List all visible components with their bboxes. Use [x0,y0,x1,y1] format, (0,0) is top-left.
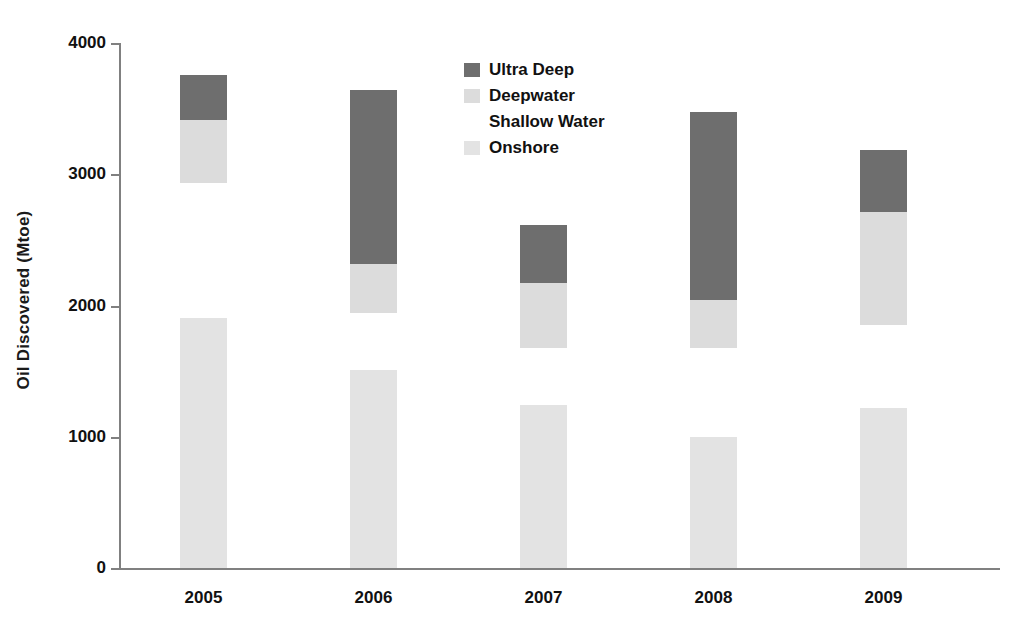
bar-segment-2009-onshore[interactable] [860,408,907,568]
y-tick-mark [111,568,120,570]
legend-swatch-icon [464,63,480,77]
bar-segment-2006-deepwater[interactable] [350,264,397,314]
legend-item-deepwater[interactable]: Deepwater [464,83,694,109]
y-tick-label: 3000 [68,164,106,184]
bar-segment-2005-ultra-deep[interactable] [180,75,227,120]
x-axis-label-2009: 2009 [860,588,907,608]
bar-segment-2009-deepwater[interactable] [860,212,907,325]
legend-swatch-icon [464,115,480,129]
x-axis-line [119,568,1000,570]
y-tick-mark [111,437,120,439]
legend-label: Shallow Water [489,112,605,132]
bar-segment-2005-onshore[interactable] [180,318,227,568]
legend-label: Deepwater [489,86,575,106]
y-tick-mark [111,174,120,176]
legend-item-ultra-deep[interactable]: Ultra Deep [464,57,694,83]
oil-discovery-stacked-bar-chart: Oil Discovered (Mtoe) 01000200030004000 … [0,0,1013,641]
bar-segment-2008-shallow-water[interactable] [690,348,737,437]
y-tick-mark [111,43,120,45]
legend-swatch-icon [464,141,480,155]
y-tick-label: 0 [97,558,106,578]
x-axis-label-2006: 2006 [350,588,397,608]
bar-segment-2009-shallow-water[interactable] [860,325,907,408]
bar-segment-2006-ultra-deep[interactable] [350,90,397,263]
x-axis-label-2005: 2005 [180,588,227,608]
legend: Ultra DeepDeepwaterShallow WaterOnshore [464,57,694,161]
bar-segment-2007-ultra-deep[interactable] [520,225,567,283]
bar-segment-2006-onshore[interactable] [350,370,397,568]
legend-swatch-icon [464,89,480,103]
legend-label: Ultra Deep [489,60,574,80]
bar-segment-2009-ultra-deep[interactable] [860,150,907,212]
y-axis-title: Oil Discovered (Mtoe) [0,0,48,600]
legend-item-onshore[interactable]: Onshore [464,135,694,161]
bar-segment-2005-shallow-water[interactable] [180,183,227,318]
x-axis-label-2008: 2008 [690,588,737,608]
y-tick-label: 4000 [68,33,106,53]
bar-segment-2007-shallow-water[interactable] [520,348,567,405]
x-axis-label-2007: 2007 [520,588,567,608]
bar-segment-2007-onshore[interactable] [520,405,567,568]
bar-segment-2005-deepwater[interactable] [180,120,227,183]
bar-segment-2006-shallow-water[interactable] [350,313,397,369]
legend-item-shallow-water[interactable]: Shallow Water [464,109,694,135]
y-tick-label: 1000 [68,427,106,447]
y-tick-label: 2000 [68,296,106,316]
legend-label: Onshore [489,138,559,158]
y-tick-mark [111,306,120,308]
bar-segment-2008-ultra-deep[interactable] [690,112,737,300]
bar-segment-2007-deepwater[interactable] [520,283,567,348]
y-axis-title-label: Oil Discovered (Mtoe) [14,211,34,390]
bar-segment-2008-deepwater[interactable] [690,300,737,348]
bar-segment-2008-onshore[interactable] [690,437,737,568]
